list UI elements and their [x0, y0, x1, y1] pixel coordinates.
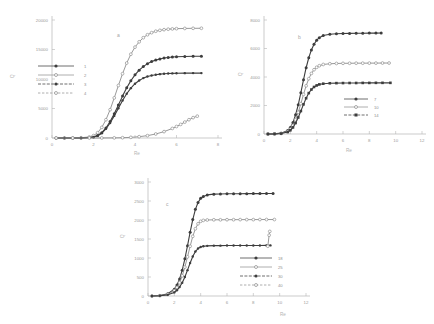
series-marker [154, 133, 157, 136]
series-marker [380, 32, 383, 35]
series-marker [206, 193, 209, 196]
x-tick-label: 0 [147, 300, 150, 305]
series-marker [183, 257, 186, 260]
series-marker [310, 88, 313, 91]
series-marker [212, 193, 215, 196]
series-marker [259, 244, 261, 246]
series-marker [265, 218, 268, 221]
series-marker [183, 27, 186, 30]
legend-marker [355, 106, 358, 109]
series-marker [342, 62, 345, 65]
series-marker [202, 219, 205, 222]
panel-b-legend: 71014 [344, 97, 379, 118]
series-line [152, 194, 273, 296]
series-marker [375, 62, 378, 65]
series-marker [96, 135, 98, 137]
series-marker [163, 130, 166, 133]
series-marker [189, 231, 192, 234]
legend-marker [255, 284, 258, 287]
series-marker [313, 86, 316, 89]
legend-label: 4 [84, 91, 87, 96]
series-marker [328, 62, 331, 65]
series-line [268, 83, 390, 134]
series-marker [266, 245, 269, 248]
series-marker [178, 286, 180, 288]
series-marker [318, 64, 321, 67]
series-marker [239, 244, 241, 246]
panel-c-plot: 050010001500200025003000 024681012 c Q R… [110, 166, 322, 324]
series-marker [252, 244, 254, 246]
series-marker [159, 295, 161, 297]
series-marker [329, 82, 332, 85]
y-tick-label: 10000 [36, 77, 49, 82]
series-marker [100, 137, 103, 140]
series-marker [191, 235, 194, 238]
series-marker [246, 244, 248, 246]
series-marker [163, 73, 165, 75]
series-marker [117, 84, 120, 87]
series-marker [265, 192, 268, 195]
series-marker [213, 244, 215, 246]
series-marker [299, 102, 302, 105]
series-marker [138, 69, 141, 72]
series-marker [101, 132, 103, 134]
panel-b: 02000400060008000 024681012 b Q Re 71014 [236, 2, 434, 162]
series-marker [105, 128, 107, 130]
panel-c-label: c [166, 201, 169, 207]
series-marker [226, 244, 228, 246]
series-marker [154, 59, 157, 62]
legend-label: 40 [278, 283, 283, 288]
series-marker [171, 28, 174, 31]
series-marker [267, 133, 270, 136]
series-marker [117, 107, 119, 109]
series-marker [200, 55, 203, 58]
legend-marker [355, 114, 358, 117]
panel-b-plot: 02000400060008000 024681012 b Q Re 71014 [236, 2, 434, 162]
panel-c-series [150, 192, 275, 297]
series-marker [335, 32, 338, 35]
series-marker [273, 218, 276, 221]
x-tick-label: 2 [289, 138, 292, 143]
series-marker [322, 34, 325, 37]
series-marker [178, 281, 181, 284]
series-marker [268, 234, 271, 237]
series-marker [146, 62, 149, 65]
panel-a-series [55, 27, 203, 140]
series-marker [302, 93, 305, 96]
series-marker [239, 218, 242, 221]
series-marker [175, 72, 177, 74]
panel-c-xlabel: Re [280, 312, 286, 317]
series-marker [159, 29, 162, 32]
series-marker [196, 115, 199, 118]
legend-marker [255, 266, 258, 269]
y-tick-label: 500 [137, 275, 145, 280]
series-marker [239, 192, 242, 195]
series-marker [232, 244, 234, 246]
series-marker [121, 72, 124, 75]
series-marker [150, 31, 153, 34]
series-marker [138, 40, 141, 43]
x-tick-label: 10 [277, 300, 282, 305]
series-marker [192, 72, 194, 74]
series-marker [142, 77, 144, 79]
series-marker [192, 255, 194, 257]
series-marker [200, 72, 202, 74]
series-marker [192, 116, 195, 119]
series-marker [307, 92, 310, 95]
panel-a: 05000100001500020000 02468 a Q Re 1234 [0, 2, 232, 162]
x-tick-label: 8 [217, 142, 220, 147]
series-marker [219, 218, 222, 221]
legend-marker [54, 82, 57, 85]
series-marker [186, 269, 188, 271]
y-tick-label: 5000 [38, 106, 48, 111]
series-marker [163, 28, 166, 31]
series-marker [199, 197, 202, 200]
series-marker [268, 230, 271, 233]
series-marker [212, 218, 215, 221]
legend-label: 2 [84, 73, 87, 78]
series-marker [155, 73, 157, 75]
series-marker [71, 137, 74, 140]
x-tick-label: 6 [342, 138, 345, 143]
panel-c-legend: 18253040 [240, 256, 283, 288]
series-marker [310, 72, 313, 75]
